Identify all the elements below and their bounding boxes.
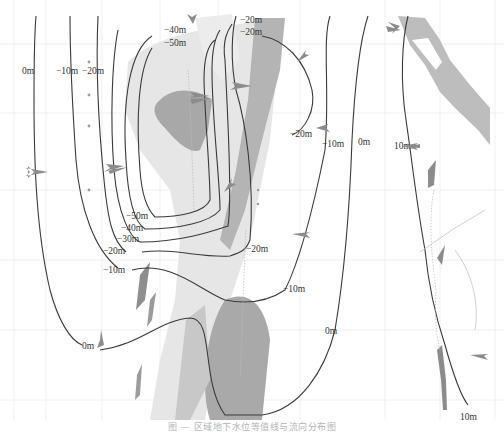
contour-label: −20m [246,244,269,254]
contour-minus10m-west [70,16,118,268]
dike-strip-mid [437,245,445,265]
contour-label: 0m [82,341,95,351]
flow-arrow-icon [386,22,401,34]
zone-dark-sliver-2 [147,292,156,327]
zone-dark-sliver-3 [135,364,142,400]
contour-label: −30m [117,234,140,244]
contour-label: −20m [290,129,313,139]
survey-lines [420,210,485,330]
dike-strip-upper [428,160,436,188]
contour-label: −20m [240,27,263,37]
contour-label: −50m [126,211,149,221]
contour-label: −40m [164,25,187,35]
contour-label: −40m [121,223,144,233]
contour-label: 0m [358,137,371,147]
contour-label: −10m [322,139,345,149]
contour-label: 0m [325,326,338,336]
contour-label: −10m [283,284,306,294]
contour-label: −50m [164,38,187,48]
figure-caption: 图 — 区域地下水位等值线与流向分布图 [0,420,504,436]
contour-map: 0m −10m −20m −40m −50m −20m −20m −20m −1… [0,0,504,420]
flow-arrow-icon [26,166,48,178]
contour-label: 0m [22,66,35,76]
contour-label: −20m [240,15,263,25]
flow-arrow-icon [297,50,309,62]
contour-label: −10m [56,66,79,76]
contour-label: 10m [460,412,478,420]
contour-label: −10m [103,265,126,275]
river-channel [398,16,490,145]
flow-arrow-icon [97,330,104,348]
flow-arrow-icon [470,354,488,360]
flow-arrow-icon [104,164,128,174]
contour-label: −20m [103,246,126,256]
contour-label: −20m [82,66,105,76]
flow-arrow-icon [292,232,310,238]
flow-arrow-icon [316,124,330,132]
